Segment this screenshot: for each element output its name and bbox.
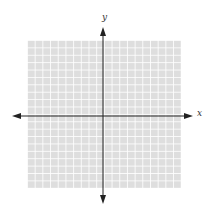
y-axis-label: y <box>102 12 107 22</box>
y-axis-top-arrow-icon <box>100 27 106 36</box>
coordinate-plane: y x <box>0 0 211 206</box>
y-axis-bottom-arrow-icon <box>100 195 106 204</box>
axes <box>0 0 211 206</box>
x-axis-left-arrow-icon <box>12 113 21 119</box>
x-axis-right-arrow-icon <box>184 113 193 119</box>
x-axis-label: x <box>197 108 202 118</box>
